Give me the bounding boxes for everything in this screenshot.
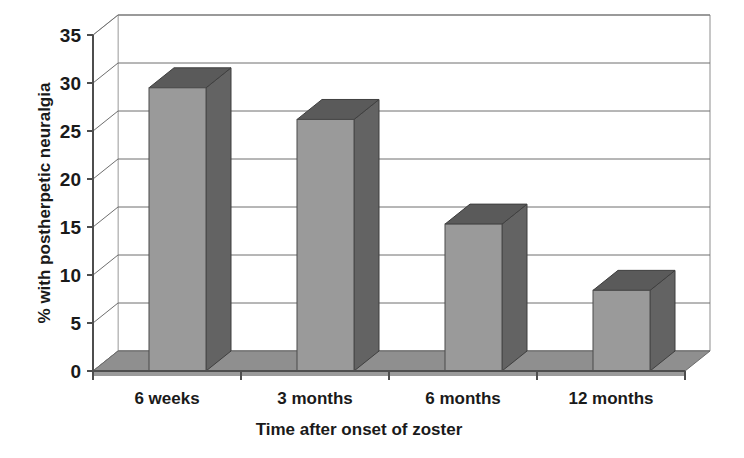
bar xyxy=(297,99,379,371)
x-category-label: 6 weeks xyxy=(134,389,199,408)
plot-left-wall xyxy=(93,15,118,371)
bar-front-face xyxy=(149,88,206,371)
x-category-label: 12 months xyxy=(568,389,653,408)
y-tick-label: 5 xyxy=(70,313,81,334)
x-axis-ticks: 6 weeks3 months6 months12 months xyxy=(93,371,685,408)
bar-side-face xyxy=(206,68,231,371)
y-tick-label: 15 xyxy=(60,217,82,238)
chart-canvas: 051015202530356 weeks3 months6 months12 … xyxy=(0,0,744,458)
x-category-label: 6 months xyxy=(425,389,501,408)
bar-side-face xyxy=(354,99,379,371)
y-tick-label: 25 xyxy=(60,121,82,142)
y-axis-ticks: 05101520253035 xyxy=(60,25,93,382)
y-tick-label: 10 xyxy=(60,265,81,286)
bar-front-face xyxy=(445,224,502,371)
y-axis-title: % with postherpetic neuralgia xyxy=(35,82,54,323)
y-tick-label: 20 xyxy=(60,169,81,190)
bar xyxy=(593,270,675,371)
y-tick-label: 30 xyxy=(60,73,81,94)
y-tick-label: 35 xyxy=(60,25,82,46)
bar-front-face xyxy=(593,290,650,371)
bar xyxy=(149,68,231,371)
bar-front-face xyxy=(297,119,354,371)
x-category-label: 3 months xyxy=(277,389,353,408)
y-tick-label: 0 xyxy=(70,361,81,382)
bar-side-face xyxy=(502,204,527,371)
x-axis-title: Time after onset of zoster xyxy=(256,420,463,439)
bar xyxy=(445,204,527,371)
bar-chart-figure: 051015202530356 weeks3 months6 months12 … xyxy=(0,0,744,458)
